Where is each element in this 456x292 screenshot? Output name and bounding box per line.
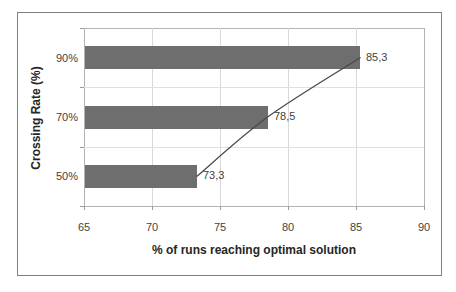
category-label: 50%	[40, 171, 78, 182]
x-tick-label: 75	[214, 222, 226, 233]
bar-50%	[85, 165, 197, 188]
y-axis-title: Crossing Rate (%)	[30, 66, 42, 169]
y-tick-mark	[80, 206, 84, 207]
category-boundary-gridline	[84, 87, 424, 88]
category-label: 90%	[40, 53, 78, 64]
x-tick-label: 90	[418, 222, 430, 233]
x-tick-label: 65	[78, 222, 90, 233]
chart-figure: 65707580859090%85,370%78,550%73,3 % of r…	[0, 0, 456, 292]
y-tick-mark	[80, 147, 84, 148]
x-tick-mark	[152, 206, 153, 210]
category-label: 70%	[40, 112, 78, 123]
data-label: 73,3	[203, 170, 224, 181]
x-tick-mark	[84, 206, 85, 210]
data-label: 85,3	[366, 52, 387, 63]
category-boundary-gridline	[84, 147, 424, 148]
x-tick-label: 70	[146, 222, 158, 233]
x-tick-mark	[220, 206, 221, 210]
bar-70%	[85, 106, 268, 129]
x-tick-mark	[288, 206, 289, 210]
x-tick-mark	[356, 206, 357, 210]
data-label: 78,5	[274, 111, 295, 122]
y-tick-mark	[80, 87, 84, 88]
x-tick-label: 85	[350, 222, 362, 233]
x-tick-mark	[424, 206, 425, 210]
bar-90%	[85, 46, 360, 69]
x-axis-title: % of runs reaching optimal solution	[152, 244, 356, 256]
y-tick-mark	[80, 28, 84, 29]
x-tick-label: 80	[282, 222, 294, 233]
